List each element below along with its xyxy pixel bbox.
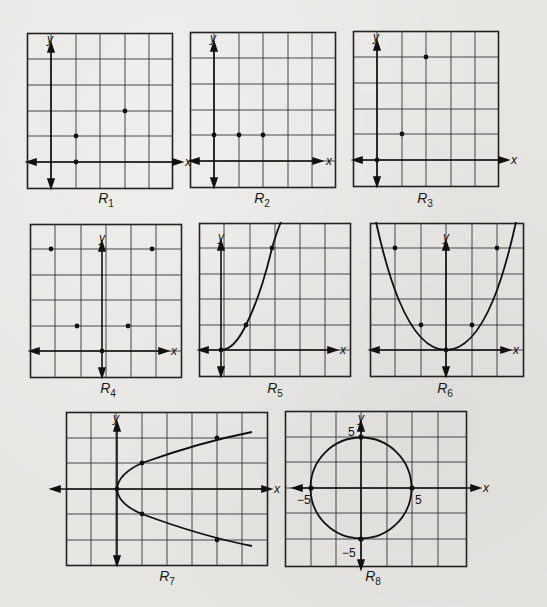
graph-r7: y x [66,412,268,566]
graph-label-r6: R6 [415,380,475,399]
svg-text:x: x [170,344,178,358]
graph-r2: y x [190,32,336,188]
tick-label-right: 5 [415,493,422,507]
svg-text:y: y [442,230,450,244]
graph-label-r5: R5 [245,380,305,399]
svg-text:x: x [512,343,520,357]
svg-text:y: y [217,230,225,244]
graph-label-r1: R1 [76,190,136,209]
tick-label-left: −5 [297,493,311,507]
graph-r8: y x 5 −5 −5 5 [285,411,467,567]
svg-text:x: x [273,482,281,496]
graph-label-r2: R2 [232,190,292,209]
graph-r5: y x [199,223,351,377]
graph-label-r8: R8 [343,568,403,587]
tick-label-bottom: −5 [342,546,356,560]
svg-text:x: x [325,154,333,168]
svg-text:x: x [339,343,347,357]
graph-r6: y x [370,223,524,377]
svg-text:y: y [112,411,120,425]
graph-label-r4: R4 [78,380,138,399]
graph-r1: y x [27,33,173,189]
svg-text:y: y [98,231,106,245]
svg-text:y: y [357,411,365,425]
graph-r3: y x [353,31,499,187]
graph-label-r7: R7 [137,568,197,587]
graph-label-r3: R3 [395,190,455,209]
svg-text:x: x [482,481,490,495]
graph-r4: y x [30,224,182,378]
tick-label-top: 5 [348,425,355,439]
svg-text:y: y [372,30,380,44]
svg-text:y: y [209,31,217,45]
svg-text:x: x [510,153,518,167]
y-axis-label: y [46,32,54,46]
